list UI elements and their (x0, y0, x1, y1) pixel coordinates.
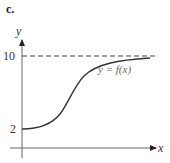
x-axis-label: x (158, 141, 163, 156)
figure: c. y 10 2 x y = f(x) (0, 0, 170, 163)
y-tick-2: 2 (10, 122, 16, 137)
curve-label: y = f(x) (98, 63, 131, 75)
y-axis-label: y (16, 24, 21, 39)
chart-canvas (0, 0, 170, 163)
y-tick-10: 10 (3, 49, 15, 64)
